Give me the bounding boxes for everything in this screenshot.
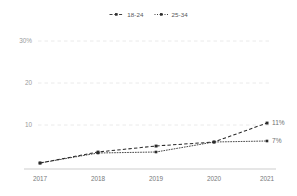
y-tick-label-10: 10 — [6, 121, 32, 129]
y-tick-label-30: 30% — [6, 37, 32, 45]
series-line-18-24 — [40, 123, 267, 163]
series-markers-18-24 — [39, 122, 269, 165]
end-label-25-34: 7% — [272, 137, 282, 145]
x-tick-label-2018: 2018 — [78, 175, 118, 183]
x-tick-label-2019: 2019 — [136, 175, 176, 183]
x-tick-label-2017: 2017 — [20, 175, 60, 183]
end-label-18-24: 11% — [272, 119, 285, 127]
plot-svg — [0, 0, 297, 196]
gridlines — [38, 41, 272, 125]
plot-area: 30% 20 10 2017 2018 2019 2020 2021 11% 7… — [0, 0, 297, 196]
series-line-25-34 — [40, 141, 267, 163]
x-tick-label-2021: 2021 — [247, 175, 287, 183]
y-tick-label-20: 20 — [6, 79, 32, 87]
x-tick-label-2020: 2020 — [194, 175, 234, 183]
line-chart: 18-24 25-34 — [0, 0, 297, 196]
